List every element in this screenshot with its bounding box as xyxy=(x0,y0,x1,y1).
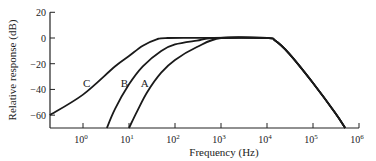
x-tick-label: 104 xyxy=(258,133,272,145)
curve-label-c: C xyxy=(83,77,90,89)
y-tick-label: −20 xyxy=(30,59,46,70)
x-tick-label: 106 xyxy=(350,133,364,145)
y-tick-label: −60 xyxy=(30,110,46,121)
y-tick-label: −40 xyxy=(30,84,46,95)
x-tick-label: 100 xyxy=(74,133,88,145)
y-axis-label: Relative response (dB) xyxy=(6,19,19,120)
x-tick-label: 102 xyxy=(166,133,180,145)
x-tick-label: 103 xyxy=(212,133,226,145)
curves xyxy=(50,37,345,128)
curve-label-a: A xyxy=(141,77,149,89)
axes: 200−20−40−60100101102103104105106 xyxy=(30,7,364,145)
x-tick-label: 105 xyxy=(304,133,318,145)
frequency-response-chart: 200−20−40−60100101102103104105106 CBA Fr… xyxy=(0,0,376,161)
y-tick-label: 0 xyxy=(41,33,46,44)
curve-label-b: B xyxy=(121,77,128,89)
x-tick-label: 101 xyxy=(120,133,134,145)
y-tick-label: 20 xyxy=(36,7,46,18)
x-axis-label: Frequency (Hz) xyxy=(189,146,259,159)
curve-c xyxy=(50,38,345,128)
